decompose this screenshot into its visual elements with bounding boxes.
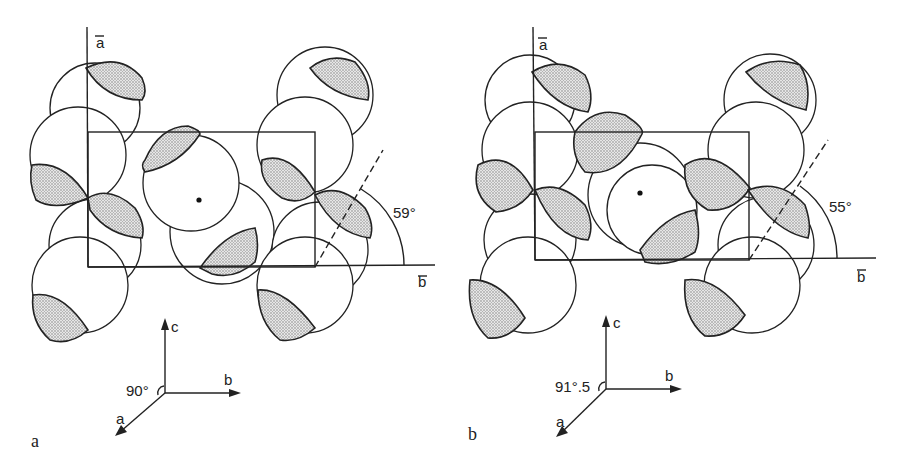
panel-a: a b 59° c b a 90° a	[30, 27, 435, 451]
triad-label-b: b	[224, 371, 232, 388]
triad-angle-label: 91°.5	[555, 378, 590, 395]
triad-label-a: a	[556, 413, 565, 430]
molecule-group-left-b	[469, 55, 590, 338]
axis-triad-a: c b a 90°	[115, 318, 241, 436]
arrow-up-icon	[161, 318, 169, 330]
triad-label-c: c	[171, 318, 179, 335]
molecule-group-center-b	[574, 112, 699, 263]
tilt-angle-label: 55°	[829, 198, 852, 215]
arrow-up-icon	[602, 315, 610, 327]
a-axis-line	[87, 27, 88, 267]
arrow-right-icon	[670, 385, 682, 393]
arrow-right-icon	[229, 389, 241, 397]
panel-label-a: a	[31, 431, 39, 451]
molecule-group-center-a	[143, 126, 275, 284]
inversion-center-dot	[196, 197, 201, 202]
triad-label-a: a	[116, 410, 125, 427]
crystal-packing-figure: a b 59° c b a 90° a	[0, 0, 904, 468]
triad-label-c: c	[613, 314, 621, 331]
tilt-angle-label: 59°	[393, 204, 416, 221]
triad-angle-label: 90°	[126, 382, 149, 399]
inversion-center-dot	[637, 190, 642, 195]
axis-triad-b: c b a 91°.5	[555, 314, 682, 437]
panel-label-b: b	[468, 424, 477, 444]
triad-label-b: b	[665, 367, 673, 384]
molecule-group-right-b	[685, 54, 816, 336]
panel-b: a b 55° c b a 91°.5 b	[468, 27, 876, 444]
